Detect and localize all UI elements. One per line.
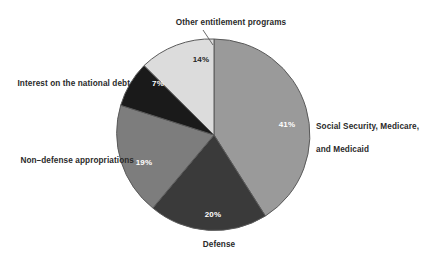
slice-label-social-security: Social Security, Medicare, and Medicaid [316, 109, 422, 167]
slice-label-defense: Defense [176, 239, 262, 251]
slice-value-defense: 20% [205, 210, 222, 219]
slice-value-social-security: 41% [279, 120, 296, 129]
slice-label-social-security-line1: Social Security, Medicare, [316, 121, 422, 133]
pie-chart: Other entitlement programs Social Securi… [0, 0, 424, 260]
slice-label-social-security-line2: and Medicaid [316, 144, 422, 156]
slice-value-non-defense: 19% [136, 158, 153, 167]
slice-label-interest-national-debt: Interest on the national debt [14, 78, 130, 90]
slice-label-other-entitlement: Other entitlement programs [166, 17, 296, 29]
slice-value-interest: 7% [152, 79, 164, 88]
slice-label-non-defense-appropriations: Non–defense appropriations [10, 155, 134, 167]
slice-value-other-entitlement: 14% [193, 55, 210, 64]
